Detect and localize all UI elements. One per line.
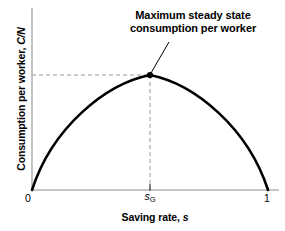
y-axis-title-variable: C/N	[15, 27, 27, 45]
x-tick-label-sg: sG	[136, 190, 164, 203]
x-tick-label-sg-variable: s	[144, 190, 149, 202]
x-axis-title-variable: s	[183, 211, 189, 223]
y-axis-title-text: Consumption per worker,	[15, 45, 27, 171]
x-tick-label-one: 1	[264, 192, 270, 204]
annotation-leader-line	[151, 42, 169, 73]
annotation-label: Maximum steady state consumption per wor…	[108, 9, 278, 35]
x-tick-label-sg-subscript: G	[150, 195, 156, 204]
y-axis-title: Consumption per worker, C/N	[15, 27, 27, 171]
y-axis-title-wrapper: Consumption per worker, C/N	[11, 6, 27, 192]
annotation-line-1: Maximum steady state	[108, 9, 278, 22]
x-axis-title-text: Saving rate,	[122, 211, 183, 223]
x-tick-label-zero: 0	[25, 192, 31, 204]
x-axis-title: Saving rate, s	[32, 211, 278, 223]
chart-figure: Maximum steady state consumption per wor…	[0, 0, 285, 231]
peak-marker-dot	[147, 72, 153, 78]
annotation-line-2: consumption per worker	[108, 22, 278, 35]
